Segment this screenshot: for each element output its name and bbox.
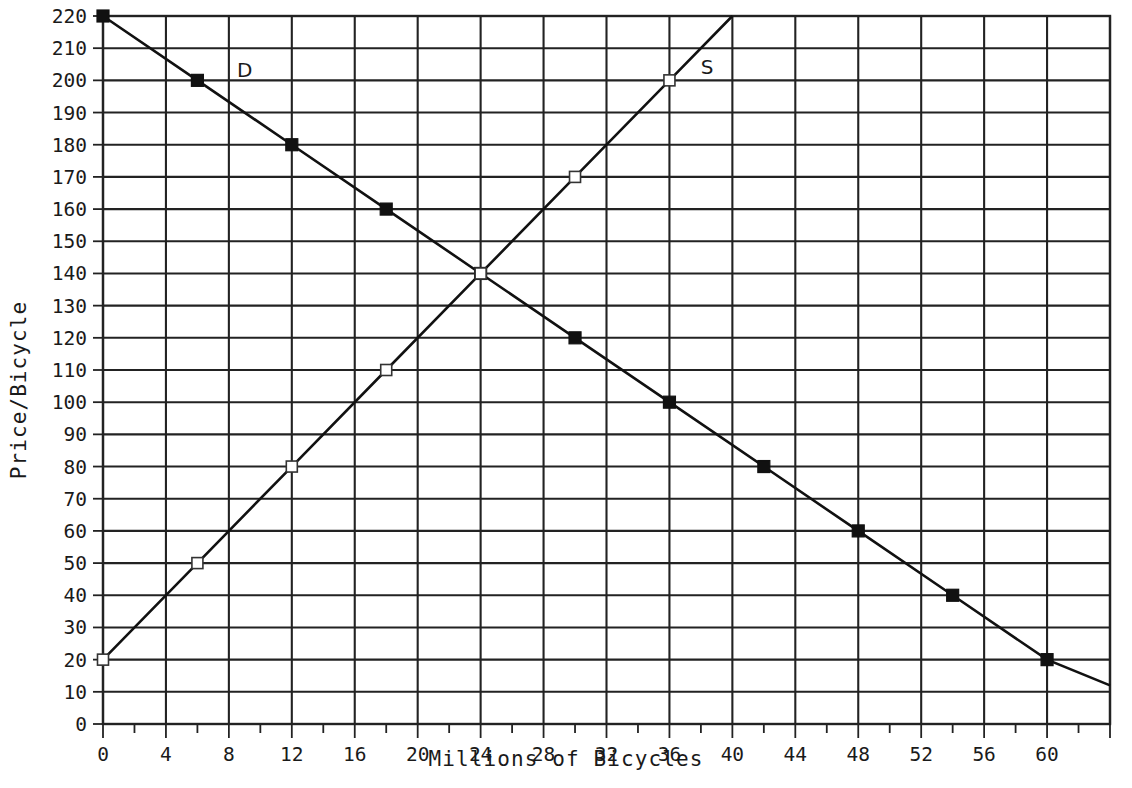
x-tick-label: 16 xyxy=(343,743,366,766)
data-point-marker xyxy=(663,396,675,408)
x-tick-label: 12 xyxy=(280,743,303,766)
series-annotations: DS xyxy=(237,55,714,82)
x-tick-label: 40 xyxy=(721,743,744,766)
data-point-marker xyxy=(947,589,959,601)
x-tick-label: 48 xyxy=(847,743,870,766)
data-point-marker xyxy=(286,461,297,472)
y-tick-label: 70 xyxy=(64,488,87,511)
x-tick-label: 56 xyxy=(972,743,995,766)
y-tick-label: 150 xyxy=(52,230,87,253)
x-tick-label: 60 xyxy=(1035,743,1058,766)
y-tick-label: 40 xyxy=(64,584,87,607)
x-tick-label: 44 xyxy=(784,743,807,766)
data-point-marker xyxy=(475,268,486,279)
y-tick-label: 30 xyxy=(64,616,87,639)
y-axis-minor-ticks xyxy=(93,16,103,724)
data-point-marker xyxy=(191,74,203,86)
data-point-marker xyxy=(192,558,203,569)
y-tick-label: 170 xyxy=(52,166,87,189)
data-point-marker xyxy=(98,654,109,665)
data-point-marker xyxy=(569,332,581,344)
y-tick-label: 0 xyxy=(75,713,87,736)
data-point-marker xyxy=(286,139,298,151)
data-point-marker xyxy=(664,75,675,86)
data-point-marker xyxy=(758,461,770,473)
y-tick-label: 210 xyxy=(52,37,87,60)
x-tick-label: 8 xyxy=(223,743,235,766)
y-tick-label: 160 xyxy=(52,198,87,221)
y-axis-tick-labels: 0102030405060708090100110120130140150160… xyxy=(52,5,87,736)
y-tick-label: 100 xyxy=(52,391,87,414)
data-point-marker xyxy=(852,525,864,537)
y-tick-label: 20 xyxy=(64,649,87,672)
x-axis-minor-ticks xyxy=(103,724,1110,738)
y-tick-label: 110 xyxy=(52,359,87,382)
y-tick-label: 140 xyxy=(52,262,87,285)
x-axis-title: Millions of Bicycles xyxy=(429,747,704,771)
data-point-marker xyxy=(381,365,392,376)
y-tick-label: 190 xyxy=(52,102,87,125)
data-point-marker xyxy=(380,203,392,215)
x-tick-label: 52 xyxy=(909,743,932,766)
y-tick-label: 90 xyxy=(64,423,87,446)
y-axis-title: Price/Bicycle xyxy=(7,301,31,480)
data-point-marker xyxy=(1041,654,1053,666)
y-tick-label: 220 xyxy=(52,5,87,28)
y-tick-label: 80 xyxy=(64,456,87,479)
x-tick-label: 4 xyxy=(160,743,172,766)
y-tick-label: 130 xyxy=(52,295,87,318)
x-tick-label: 0 xyxy=(97,743,109,766)
y-tick-label: 10 xyxy=(64,681,87,704)
supply-demand-chart: 04812162024283236404448525660 0102030405… xyxy=(0,0,1132,788)
chart-container: 04812162024283236404448525660 0102030405… xyxy=(0,0,1132,788)
series-label-s: S xyxy=(701,55,714,79)
y-tick-label: 120 xyxy=(52,327,87,350)
x-tick-label: 20 xyxy=(406,743,429,766)
y-tick-label: 50 xyxy=(64,552,87,575)
y-tick-label: 60 xyxy=(64,520,87,543)
data-point-marker xyxy=(97,10,109,22)
data-point-marker xyxy=(570,171,581,182)
series-label-d: D xyxy=(237,58,252,82)
y-tick-label: 200 xyxy=(52,69,87,92)
chart-title xyxy=(0,0,1132,5)
y-tick-label: 180 xyxy=(52,134,87,157)
